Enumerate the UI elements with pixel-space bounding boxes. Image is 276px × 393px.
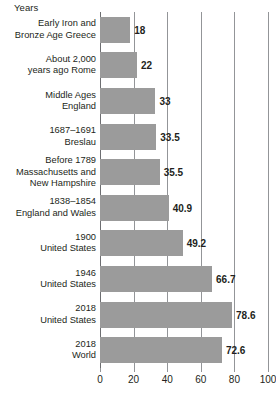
category-label-line: Breslau bbox=[4, 137, 96, 148]
bar-row: 40.9 bbox=[100, 195, 268, 221]
category-label-line: England bbox=[4, 101, 96, 112]
category-label-line: About 2,000 bbox=[4, 54, 96, 65]
bar-row: 18 bbox=[100, 17, 268, 43]
category-label-line: Early Iron and bbox=[4, 18, 96, 29]
tick-mark-40 bbox=[167, 368, 168, 372]
category-label: About 2,000years ago Rome bbox=[4, 54, 96, 77]
category-label-line: 1946 bbox=[4, 268, 96, 279]
category-label-line: 1838–1854 bbox=[4, 196, 96, 207]
category-label-line: World bbox=[4, 350, 96, 361]
bar-row: 33.5 bbox=[100, 124, 268, 150]
x-tick-label: 0 bbox=[97, 374, 103, 385]
category-label: Middle AgesEngland bbox=[4, 90, 96, 113]
category-label: 1946United States bbox=[4, 268, 96, 291]
category-label-line: Before 1789 bbox=[4, 155, 96, 166]
bar-value-label: 22 bbox=[137, 60, 152, 71]
plot-area: 18223333.535.540.949.266.778.672.6 bbox=[100, 12, 268, 368]
bar-row: 49.2 bbox=[100, 230, 268, 256]
chart-title: Years bbox=[14, 2, 38, 13]
bar-value-label: 40.9 bbox=[169, 202, 192, 213]
bar-value-label: 35.5 bbox=[160, 167, 183, 178]
x-tick-label: 80 bbox=[229, 374, 240, 385]
category-label-line: 1687–1691 bbox=[4, 125, 96, 136]
category-label: Before 1789Massachusetts andNew Hampshir… bbox=[4, 155, 96, 189]
category-label-line: Middle Ages bbox=[4, 90, 96, 101]
bar bbox=[100, 124, 156, 150]
category-label-line: 1900 bbox=[4, 232, 96, 243]
category-label-line: United States bbox=[4, 279, 96, 290]
category-label: Early Iron andBronze Age Greece bbox=[4, 18, 96, 41]
category-label-line: United States bbox=[4, 243, 96, 254]
bar bbox=[100, 195, 169, 221]
category-label: 1687–1691Breslau bbox=[4, 125, 96, 148]
gridline-100 bbox=[268, 12, 269, 368]
bar-row: 72.6 bbox=[100, 337, 268, 363]
bar bbox=[100, 88, 155, 114]
bar-value-label: 78.6 bbox=[232, 309, 255, 320]
x-tick-label: 20 bbox=[128, 374, 139, 385]
bar-value-label: 72.6 bbox=[222, 345, 245, 356]
bar bbox=[100, 17, 130, 43]
category-label-line: years ago Rome bbox=[4, 65, 96, 76]
bar bbox=[100, 266, 212, 292]
bar-row: 33 bbox=[100, 88, 268, 114]
life-expectancy-bar-chart: Years 18223333.535.540.949.266.778.672.6… bbox=[0, 0, 276, 393]
bar-value-label: 33.5 bbox=[156, 131, 179, 142]
category-label: 2018World bbox=[4, 339, 96, 362]
bar-value-label: 49.2 bbox=[183, 238, 206, 249]
x-tick-label: 60 bbox=[195, 374, 206, 385]
category-label: 2018United States bbox=[4, 303, 96, 326]
bar bbox=[100, 159, 160, 185]
bar-row: 66.7 bbox=[100, 266, 268, 292]
tick-mark-60 bbox=[201, 368, 202, 372]
bar bbox=[100, 52, 137, 78]
x-tick-label: 40 bbox=[162, 374, 173, 385]
category-label-line: New Hampshire bbox=[4, 178, 96, 189]
tick-mark-0 bbox=[100, 368, 101, 372]
bar-row: 22 bbox=[100, 52, 268, 78]
tick-mark-20 bbox=[134, 368, 135, 372]
tick-mark-80 bbox=[234, 368, 235, 372]
bar-row: 78.6 bbox=[100, 302, 268, 328]
bar bbox=[100, 337, 222, 363]
bar bbox=[100, 302, 232, 328]
category-label-line: United States bbox=[4, 315, 96, 326]
x-tick-label: 100 bbox=[260, 374, 276, 385]
category-label-line: Massachusetts and bbox=[4, 167, 96, 178]
bar-value-label: 18 bbox=[130, 24, 145, 35]
category-label: 1838–1854England and Wales bbox=[4, 196, 96, 219]
bar bbox=[100, 230, 183, 256]
category-label-line: 2018 bbox=[4, 303, 96, 314]
category-label: 1900United States bbox=[4, 232, 96, 255]
category-label-line: 2018 bbox=[4, 339, 96, 350]
category-label-line: Bronze Age Greece bbox=[4, 30, 96, 41]
category-label-line: England and Wales bbox=[4, 208, 96, 219]
bar-row: 35.5 bbox=[100, 159, 268, 185]
bar-value-label: 66.7 bbox=[212, 274, 235, 285]
bar-value-label: 33 bbox=[155, 96, 170, 107]
tick-mark-100 bbox=[268, 368, 269, 372]
